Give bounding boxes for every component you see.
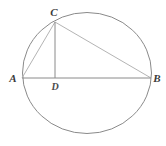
point-label-c: C xyxy=(50,6,58,18)
point-label-d: D xyxy=(50,81,58,92)
point-label-b: B xyxy=(152,72,160,84)
circle-outline xyxy=(23,13,152,134)
point-label-a: A xyxy=(8,72,16,84)
geometry-figure: C A B D xyxy=(0,0,166,146)
geometry-canvas: C A B D xyxy=(0,0,166,146)
segment-cb-chord xyxy=(55,22,151,78)
